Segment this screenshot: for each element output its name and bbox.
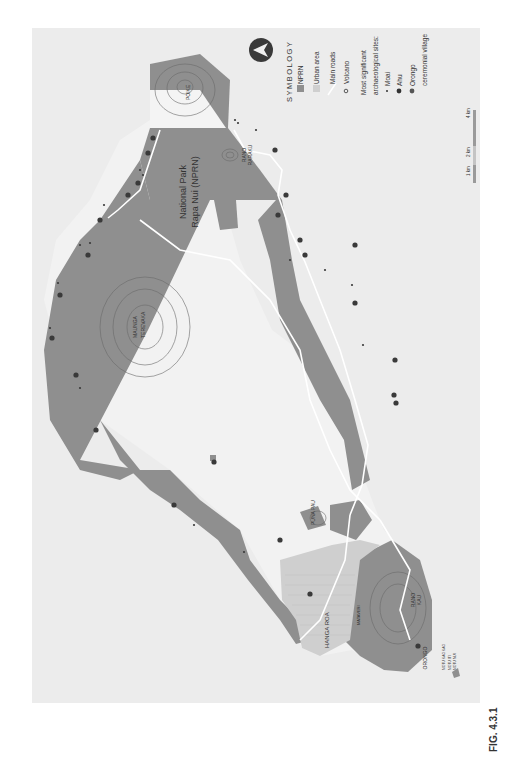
place-orongo: ORONGO <box>422 647 428 670</box>
place-motu-kao-kao: MOTU KAO KAO <box>442 643 446 670</box>
island-map: National Park Rapa Nui (NPRN) POIKE RANO… <box>0 0 505 761</box>
legend-label-nprn: NPRN <box>297 65 304 84</box>
legend-ahu-icon <box>397 89 402 94</box>
legend-label-volcano: Volcano <box>343 60 350 84</box>
north-arrow-icon <box>249 38 273 62</box>
legend-swatch-urban <box>313 85 320 92</box>
legend-label-ceremonial: ceremonial village <box>421 34 429 86</box>
park-label-line2: Rapa Nui (NPRN) <box>190 156 200 228</box>
legend-label-urban: Urban area <box>313 51 320 84</box>
place-rano-raraku-2: RARAKU <box>247 144 253 165</box>
park-label-line1: National Park <box>178 164 188 219</box>
legend-orongo-icon <box>410 89 415 94</box>
legend-label-roads: Main roads <box>329 51 336 84</box>
map-figure: National Park Rapa Nui (NPRN) POIKE RANO… <box>0 0 505 761</box>
legend: SYMBOLOGY NPRN Urban area Main roads Vol… <box>285 34 429 102</box>
orongo-site <box>415 643 420 648</box>
place-hanga-roa: HANGA ROA <box>324 612 330 648</box>
legend-title: SYMBOLOGY <box>285 41 294 102</box>
place-mataveri: MATAVERI <box>356 605 361 625</box>
figure-caption: FIG. 4.3.1 <box>488 707 499 752</box>
legend-label-moai: Moai <box>384 72 391 86</box>
scale-bar: 1 km 2 km 4 km <box>466 108 476 183</box>
legend-sites-heading-1: Most significant <box>360 50 368 95</box>
scale-label-2km: 2 km <box>466 147 471 157</box>
place-terevaka-2: TEREVAKA <box>140 311 146 338</box>
place-poike: POIKE <box>185 84 191 100</box>
nprn-rano-raraku <box>140 128 282 200</box>
place-motu-iti: MOTU ITI <box>448 655 452 670</box>
scale-label-4km: 4 km <box>466 108 471 118</box>
scale-label-1km: 1 km <box>466 166 471 176</box>
place-rano-kau-2: KAU <box>416 594 422 605</box>
legend-label-orongo: Orongo <box>409 64 417 86</box>
legend-volcano-icon <box>344 89 348 93</box>
legend-label-ahu: Ahu <box>396 74 403 86</box>
place-motu-nui: MOTU NUI <box>453 653 457 670</box>
place-terevaka-1: MAUNGA <box>132 315 138 338</box>
legend-swatch-nprn <box>297 85 304 92</box>
legend-moai-icon <box>386 90 388 92</box>
legend-sites-heading-2: archaeological sites: <box>372 36 380 95</box>
place-puna-pau: PUNA PAU <box>310 500 316 525</box>
